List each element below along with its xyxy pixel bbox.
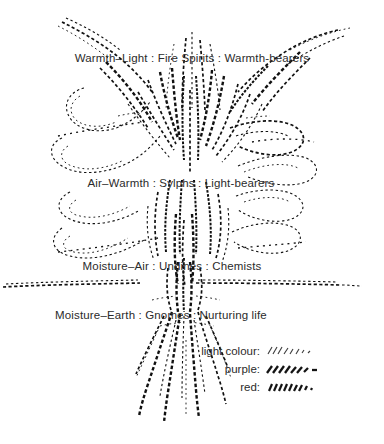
legend-label-purple: purple: [225,363,260,375]
legend-swatch-purple [264,362,326,377]
annotation-sylphs: Air–Warmth : Sylphs : Light-bearers [88,177,275,190]
legend-label-red: red: [240,381,260,393]
annotation-fire-spirits: Warmth–Light : Fire Spirits : Warmth-bea… [75,52,310,65]
legend-row-purple: purple: [196,363,346,381]
legend-swatch-light-colour [264,344,326,359]
annotation-gnomes: Moisture–Earth : Gnomes : Nurturing life [55,309,267,322]
figure-canvas: .hatch { stroke:#111; fill:none; stroke-… [0,0,384,444]
legend-label-light-colour: light colour: [201,345,260,357]
stroke-legend: light colour: purple: [196,345,346,399]
right-upper-loops [230,121,317,185]
legend-row-light-colour: light colour: [196,345,346,363]
left-upper-loops [52,88,161,173]
annotation-undines: Moisture–Air : Undines : Chemists [83,260,262,273]
legend-swatch-red [264,380,326,395]
legend-row-red: red: [196,381,346,399]
texture-specks [118,112,270,326]
fire-spirit-plumes [58,18,350,128]
